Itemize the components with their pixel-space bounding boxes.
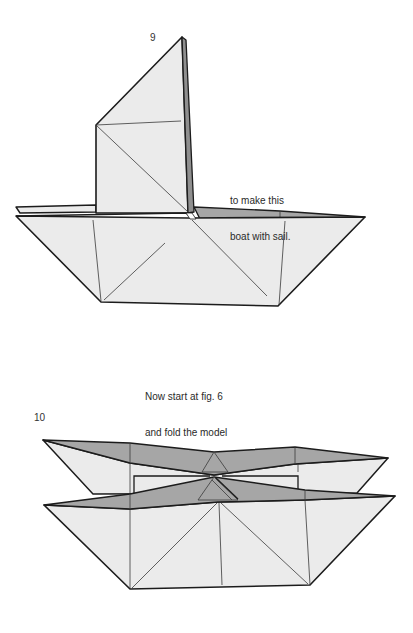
- instruction-page: 9 to make this: [0, 0, 413, 633]
- catamaran-diagram: [0, 0, 413, 633]
